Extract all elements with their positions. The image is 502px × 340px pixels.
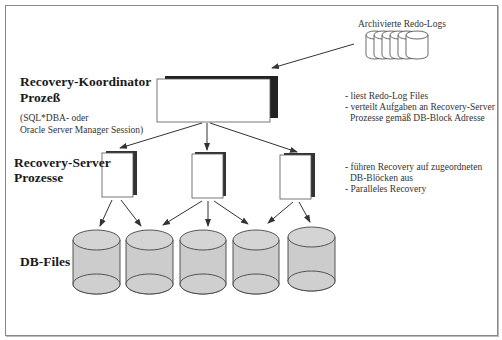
coordinator-desc-line3: Prozesse gemäß DB-Block Adresse — [350, 113, 485, 124]
coordinator-box — [157, 76, 278, 122]
servers-desc-line3: - Paralleles Recovery — [345, 184, 426, 195]
db-file-cylinder-3 — [180, 230, 226, 294]
coordinator-title-line1: Recovery-Koordinator — [20, 74, 151, 90]
server-box-3 — [280, 153, 315, 199]
servers-desc-line2: DB-Blöcken aus — [350, 173, 413, 184]
server-box-2 — [192, 152, 226, 198]
arrows-servers-to-dbfiles — [100, 200, 310, 226]
servers-title-line2: Prozesse — [14, 170, 63, 186]
db-file-cylinder-1 — [73, 230, 120, 294]
arrows-coordinator-to-servers — [120, 123, 297, 152]
db-file-cylinder-5 — [288, 227, 335, 291]
arrow-logs-to-coordinator — [272, 44, 354, 68]
db-file-cylinder-4 — [233, 230, 279, 294]
archived-redo-logs-icon — [366, 31, 428, 59]
coordinator-note-line2: Oracle Server Manager Session) — [20, 125, 143, 136]
coordinator-desc-line2: - verteilt Aufgaben an Recovery-Server — [345, 102, 495, 113]
db-files-label: DB-Files — [20, 254, 70, 270]
coordinator-note-line1: (SQL*DBA- oder — [20, 113, 88, 124]
db-file-cylinder-2 — [126, 230, 173, 294]
servers-desc-line1: - führen Recovery auf zugeordneten — [345, 162, 482, 173]
coordinator-desc-line1: - liest Redo-Log Files — [345, 91, 428, 102]
db-files-group — [73, 227, 335, 294]
coordinator-title-line2: Prozeß — [20, 90, 60, 106]
archive-label: Archivierte Redo-Logs — [358, 19, 446, 30]
servers-title-line1: Recovery-Server — [14, 155, 111, 171]
